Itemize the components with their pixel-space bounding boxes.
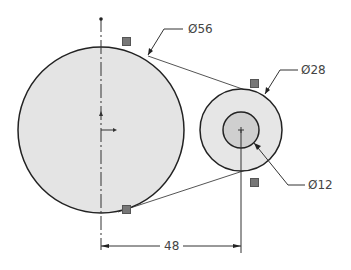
- dimension-label-d28[interactable]: Ø28: [301, 64, 326, 76]
- dimension-label-d12[interactable]: Ø12: [308, 179, 333, 191]
- centerline-endpoint[interactable]: [99, 17, 103, 21]
- leader-d56[interactable]: [148, 29, 183, 55]
- dimension-label-48[interactable]: 48: [164, 240, 179, 252]
- dim-arrow-right-icon: [233, 244, 241, 248]
- pulley-sketch-canvas: [0, 0, 351, 270]
- leader-d28[interactable]: [265, 70, 298, 94]
- dimension-label-d56[interactable]: Ø56: [188, 23, 213, 35]
- tangent-relation-icon[interactable]: [122, 205, 131, 214]
- leader-d56-arrow-icon: [148, 48, 153, 55]
- tangent-relation-icon[interactable]: [250, 178, 259, 187]
- tangent-relation-icon[interactable]: [250, 79, 259, 88]
- dim-arrow-left-icon: [101, 244, 109, 248]
- tangent-relation-icon[interactable]: [122, 37, 131, 46]
